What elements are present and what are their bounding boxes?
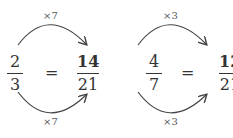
numerator: 4 xyxy=(146,53,162,71)
numerator: 2 xyxy=(7,53,23,71)
equivalent-fraction-diagram-1: ×7 ×7 2 3 = 14 21 xyxy=(0,0,120,138)
right-fraction: 14 21 xyxy=(77,53,99,94)
left-fraction: 4 7 xyxy=(146,53,162,94)
equivalent-fraction-diagram-2: ×3 ×3 4 7 = 12 21 xyxy=(120,0,233,138)
denominator: 3 xyxy=(7,76,23,94)
numerator: 14 xyxy=(77,53,99,71)
denominator: 21 xyxy=(77,76,99,94)
equals-sign: = xyxy=(181,63,194,82)
fraction-bar xyxy=(77,73,99,74)
bottom-multiplier: ×7 xyxy=(43,116,58,127)
fraction-bar xyxy=(7,73,23,74)
fraction-bar xyxy=(146,73,162,74)
denominator: 7 xyxy=(146,76,162,94)
bottom-multiplier: ×3 xyxy=(163,116,178,127)
numerator: 12 xyxy=(219,53,233,71)
denominator: 21 xyxy=(219,76,233,94)
top-multiplier: ×3 xyxy=(163,10,178,21)
top-multiplier: ×7 xyxy=(43,10,58,21)
right-fraction: 12 21 xyxy=(219,53,233,94)
equals-sign: = xyxy=(45,63,58,82)
fraction-bar xyxy=(219,73,233,74)
left-fraction: 2 3 xyxy=(7,53,23,94)
